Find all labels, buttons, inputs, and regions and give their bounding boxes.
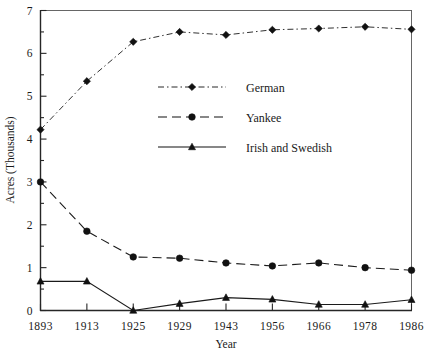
- series-line: [41, 182, 412, 270]
- series-group: [37, 23, 415, 313]
- y-tick-label: 6: [27, 47, 33, 59]
- series-yankee: [37, 179, 415, 274]
- x-tick-label: 1978: [353, 320, 378, 332]
- line-chart: 01234567 Acres (Thousands) 1893191319251…: [0, 0, 429, 352]
- series-line: [41, 27, 412, 130]
- chart-container: 01234567 Acres (Thousands) 1893191319251…: [0, 0, 429, 352]
- chart-legend: GermanYankeeIrish and Swedish: [158, 81, 332, 155]
- y-tick-label: 2: [27, 219, 33, 231]
- x-tick-label: 1956: [260, 320, 285, 332]
- x-tick-label: 1925: [121, 320, 146, 332]
- data-point-marker-triangle: [408, 296, 415, 303]
- x-tick-label-group: 189319131925192919431956196619781986: [28, 320, 424, 332]
- x-tick-label: 1929: [167, 320, 192, 332]
- legend-entry-german[interactable]: German: [158, 81, 285, 95]
- legend-label: Yankee: [246, 111, 281, 125]
- x-axis-title: Year: [215, 338, 236, 350]
- y-tick-label: 3: [27, 176, 33, 188]
- series-german: [37, 23, 415, 133]
- data-point-marker-circle: [130, 254, 137, 261]
- legend-label: Irish and Swedish: [246, 141, 332, 155]
- y-tick-group: [41, 11, 47, 311]
- data-point-marker-circle: [315, 260, 322, 267]
- data-point-marker-diamond: [176, 28, 183, 35]
- legend-entry-irish-and-swedish[interactable]: Irish and Swedish: [158, 141, 332, 155]
- y-tick-label-group: 01234567: [27, 5, 33, 317]
- x-tick-label: 1943: [214, 320, 239, 332]
- data-point-marker-circle: [269, 263, 276, 270]
- y-axis-title: Acres (Thousands): [4, 116, 17, 203]
- y-tick-label: 1: [27, 262, 33, 274]
- data-point-marker-diamond: [408, 26, 415, 33]
- y-tick-label: 7: [27, 5, 33, 17]
- legend-entry-yankee[interactable]: Yankee: [158, 111, 281, 125]
- data-point-marker-diamond: [188, 83, 195, 90]
- data-point-marker-diamond: [362, 23, 369, 30]
- data-point-marker-diamond: [315, 25, 322, 32]
- legend-label: German: [246, 81, 285, 95]
- data-point-marker-triangle: [223, 294, 230, 301]
- x-tick-label: 1966: [306, 320, 331, 332]
- x-tick-label: 1913: [75, 320, 100, 332]
- y-tick-label: 5: [27, 90, 33, 102]
- y-axis: 01234567 Acres (Thousands): [4, 5, 47, 317]
- data-point-marker-circle: [189, 114, 196, 121]
- data-point-marker-circle: [84, 228, 91, 235]
- data-point-marker-circle: [362, 264, 369, 271]
- data-point-marker-diamond: [222, 31, 229, 38]
- x-tick-label: 1986: [399, 320, 424, 332]
- data-point-marker-circle: [408, 267, 415, 274]
- data-point-marker-diamond: [269, 26, 276, 33]
- x-tick-label: 1893: [28, 320, 53, 332]
- data-point-marker-circle: [176, 255, 183, 262]
- y-tick-label: 0: [27, 305, 33, 317]
- y-tick-label: 4: [27, 133, 33, 145]
- data-point-marker-circle: [37, 179, 44, 186]
- data-point-marker-circle: [223, 260, 230, 267]
- x-axis: 189319131925192919431956196619781986 Yea…: [28, 304, 424, 351]
